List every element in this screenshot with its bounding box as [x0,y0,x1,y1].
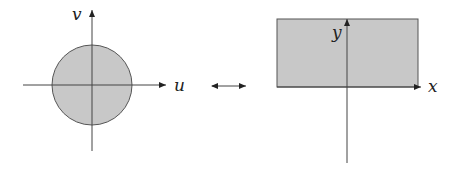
v-axis-label: v [72,4,82,24]
mapping-diagram: u v x y [0,0,457,169]
xy-plane: x y [277,19,438,163]
u-axis-label: u [174,75,185,95]
x-axis-label: x [428,76,438,96]
uv-plane: u v [23,4,185,151]
y-axis-label: y [331,22,342,42]
